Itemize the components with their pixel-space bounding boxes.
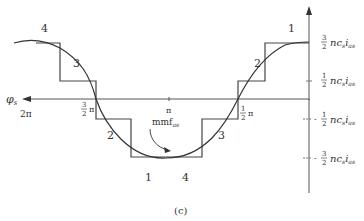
y-tick-label-1-2: 1 2 ncsias — [321, 72, 355, 89]
y-tick-label-3-2: 3 2 ncsias — [321, 34, 355, 51]
x-axis-arrow-icon — [22, 96, 31, 102]
svg-text:2: 2 — [82, 110, 86, 118]
mmf-diagram: φs 2π 3 2 π π 1 2 π 4 3 2 1 4 3 2 1 mmfa… — [0, 0, 364, 221]
step-label-left-upper: 3 — [73, 57, 80, 70]
svg-text:ncsias: ncsias — [330, 75, 355, 87]
svg-text:3: 3 — [322, 150, 326, 158]
step-label-top-right: 1 — [288, 22, 295, 35]
y-tick-label-neg-1-2: - 1 2 ncsias — [314, 111, 355, 128]
step-label-bottom-right: 4 — [182, 171, 189, 184]
svg-text:ncsias: ncsias — [330, 114, 355, 126]
svg-text:1: 1 — [322, 72, 326, 80]
svg-text:ncsias: ncsias — [330, 153, 355, 165]
figure-caption: (c) — [174, 205, 188, 216]
svg-text:3: 3 — [82, 101, 86, 109]
svg-text:π: π — [89, 105, 94, 114]
svg-text:2: 2 — [322, 81, 326, 89]
step-label-top-left: 4 — [41, 22, 48, 35]
x-axis — [22, 96, 309, 102]
svg-text:2: 2 — [322, 120, 326, 128]
svg-text:1: 1 — [241, 105, 245, 113]
svg-text:3: 3 — [322, 34, 326, 42]
curve-label: mmfas — [152, 117, 179, 128]
tick-label-3-2-pi: 3 2 π — [81, 101, 94, 118]
svg-text:2: 2 — [322, 159, 326, 167]
step-label-bottom-left: 1 — [145, 171, 152, 184]
mmf-pointer-arrowhead-icon — [164, 147, 171, 153]
svg-text:2: 2 — [241, 114, 245, 122]
svg-text:ncsias: ncsias — [330, 37, 355, 49]
svg-text:-: - — [314, 154, 317, 163]
tick-label-2pi: 2π — [20, 109, 32, 119]
svg-text:-: - — [314, 115, 317, 124]
x-axis-label: φs — [6, 93, 18, 107]
y-axis-arrow-icon — [306, 6, 312, 15]
svg-text:2: 2 — [322, 43, 326, 51]
step-label-left-lower: 2 — [107, 129, 114, 142]
svg-text:1: 1 — [322, 111, 326, 119]
svg-text:π: π — [248, 109, 253, 118]
y-tick-label-neg-3-2: - 3 2 ncsias — [314, 150, 355, 167]
step-label-right-lower: 3 — [218, 129, 225, 142]
tick-label-pi: π — [166, 106, 171, 115]
tick-label-1-2-pi: 1 2 π — [240, 105, 253, 122]
mmf-pointer-arrow — [150, 129, 168, 150]
step-label-right-upper: 2 — [254, 57, 261, 70]
